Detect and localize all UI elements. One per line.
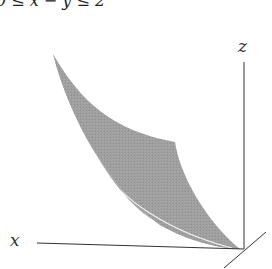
- x-axis-label: x: [10, 230, 20, 250]
- surface-patch: [53, 54, 240, 249]
- surface-plot: [0, 0, 272, 269]
- y-axis: [224, 232, 266, 268]
- z-axis-label: z: [238, 36, 247, 56]
